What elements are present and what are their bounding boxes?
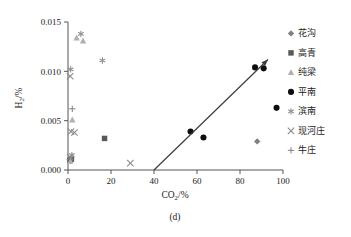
data-point — [200, 134, 206, 140]
legend-marker — [288, 89, 294, 95]
x-tick-label: 100 — [276, 176, 290, 186]
legend-label: 高青 — [298, 47, 316, 58]
y-tick-marks — [64, 22, 68, 170]
y-axis-title: H2/% — [14, 88, 25, 109]
trend-arrow-layer — [154, 59, 268, 170]
x-tick-label: 60 — [193, 176, 203, 186]
legend-label: 现河庄 — [298, 125, 325, 136]
legend-label: 滨南 — [298, 105, 316, 116]
legend-marker — [288, 108, 294, 114]
y-tick-label: 0.000 — [41, 165, 62, 175]
data-point — [69, 116, 75, 122]
data-point — [274, 105, 280, 111]
legend: 花沟高青纯梁平南滨南现河庄牛庄 — [288, 27, 325, 155]
data-point — [100, 57, 106, 63]
series-group — [67, 35, 86, 164]
series-group — [67, 136, 107, 163]
series-group — [67, 73, 134, 166]
legend-label: 平南 — [298, 86, 316, 97]
series-group — [188, 64, 280, 140]
series-group — [69, 106, 75, 112]
x-tick-label: 80 — [236, 176, 246, 186]
chart-container: 020406080100 0.0000.0050.0100.015 CO2/% … — [0, 0, 351, 237]
data-point — [80, 38, 86, 44]
legend-item[interactable]: 滨南 — [288, 105, 316, 116]
y-axis-title-unit: /% — [14, 88, 24, 99]
legend-label: 纯梁 — [298, 66, 316, 77]
data-point — [78, 31, 84, 37]
data-point — [254, 138, 260, 144]
legend-marker — [288, 147, 294, 153]
legend-marker — [288, 50, 293, 55]
legend-item[interactable]: 平南 — [288, 86, 316, 97]
y-tick-label: 0.015 — [41, 17, 62, 27]
x-tick-label: 40 — [150, 176, 160, 186]
scatter-plot: 020406080100 0.0000.0050.0100.015 CO2/% … — [0, 0, 351, 237]
legend-item[interactable]: 牛庄 — [288, 144, 316, 155]
trend-line — [154, 59, 268, 170]
y-tick-label: 0.010 — [41, 67, 62, 77]
data-point — [102, 136, 107, 141]
x-tick-labels: 020406080100 — [66, 176, 291, 186]
legend-marker — [288, 30, 294, 36]
x-axis-title-unit: /% — [178, 190, 189, 200]
x-tick-marks — [68, 170, 283, 174]
legend-item[interactable]: 现河庄 — [288, 125, 325, 136]
data-point — [69, 106, 75, 112]
data-point — [127, 160, 133, 166]
data-point — [68, 66, 74, 72]
data-points-layer — [67, 31, 280, 167]
x-tick-label: 20 — [107, 176, 117, 186]
data-point — [188, 128, 194, 134]
legend-label: 花沟 — [298, 27, 316, 38]
legend-item[interactable]: 花沟 — [288, 27, 316, 38]
legend-marker — [288, 128, 294, 134]
x-tick-label: 0 — [66, 176, 71, 186]
y-tick-labels: 0.0000.0050.0100.015 — [41, 17, 62, 175]
legend-label: 牛庄 — [298, 144, 316, 155]
legend-item[interactable]: 纯梁 — [288, 66, 316, 77]
legend-item[interactable]: 高青 — [288, 47, 316, 58]
series-group — [68, 31, 105, 159]
y-tick-label: 0.005 — [41, 116, 62, 126]
x-axis-title-base: CO — [161, 190, 174, 200]
x-axis-title: CO2/% — [161, 190, 188, 201]
figure-caption: (d) — [169, 212, 180, 223]
legend-marker — [288, 69, 294, 75]
